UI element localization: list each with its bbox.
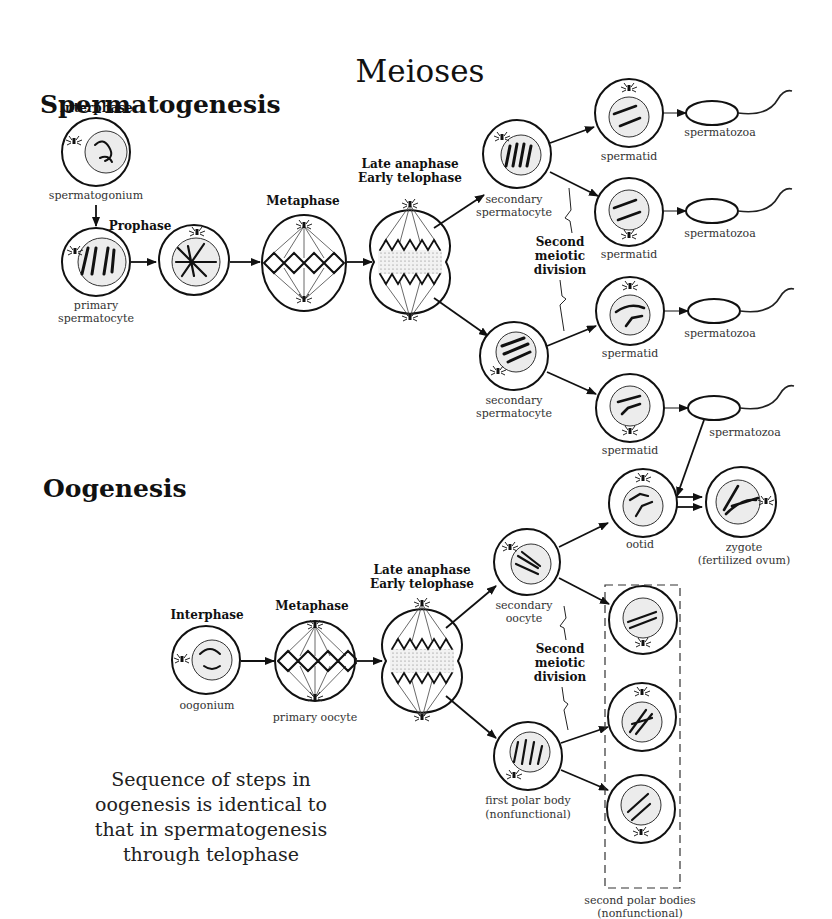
cell-secondary-oocyte (494, 529, 560, 595)
label-spermatogonium: spermatogonium (49, 189, 144, 202)
spermatozoon-2 (663, 189, 792, 223)
label-first-polar-body-2: (nonfunctional) (485, 808, 571, 821)
arrow-to-spermatid-1 (550, 127, 594, 143)
cell-prophase (159, 225, 229, 295)
cell-secondary-spermatocyte-lower (480, 322, 548, 390)
label-zygote-2: (fertilized ovum) (698, 554, 791, 567)
label-spermatozoa-1: spermatozoa (684, 126, 756, 139)
label-secondary-oocyte-1: secondary (495, 599, 553, 612)
cell-oogonium (172, 626, 240, 694)
arrow-to-secondary-spermatocyte-lower (434, 298, 488, 336)
label-spermatocyte-upper: spermatocyte (476, 206, 552, 219)
cell-primary-oocyte (275, 620, 356, 701)
phase-label-interphase: Interphase (59, 101, 132, 115)
cell-ootid (609, 469, 677, 537)
note-line-2: oogenesis is identical to (95, 793, 327, 815)
label-second-polar-bodies-1: second polar bodies (584, 894, 696, 907)
oo-phase-label-interphase: Interphase (170, 608, 243, 622)
phase-label-prophase: Prophase (109, 219, 172, 233)
arrow-fertilization (677, 420, 704, 496)
label-oogonium: oogonium (179, 699, 235, 712)
cell-second-polar-body-1 (609, 586, 677, 654)
label-spermatid-2: spermatid (601, 248, 657, 261)
phase-label-metaphase: Metaphase (266, 194, 340, 208)
label-ootid: ootid (626, 538, 654, 551)
label-spermatid-4: spermatid (602, 444, 658, 457)
oo-pointer-second-division-upper (560, 606, 566, 640)
second-division-line3: division (534, 263, 587, 277)
oo-phase-label-early-telophase: Early telophase (370, 577, 474, 591)
cell-spermatid-2 (595, 178, 663, 246)
cell-spermatogonium (62, 118, 130, 186)
note-line-3: that in spermatogenesis (95, 818, 327, 840)
cell-spermatid-3 (596, 277, 664, 345)
arrow-to-ootid (559, 523, 608, 547)
arrow-to-spermatid-4 (547, 372, 596, 394)
oo-phase-label-late-anaphase: Late anaphase (373, 563, 470, 577)
cell-second-polar-body-3 (607, 775, 675, 843)
pointer-second-division-upper (565, 188, 572, 233)
arrow-to-spermatid-2 (550, 172, 598, 196)
cell-zygote (706, 467, 776, 537)
cell-first-polar-body (494, 722, 562, 790)
sequence-note: Sequence of steps in oogenesis is identi… (95, 768, 327, 865)
oo-second-division-line1: Second (536, 642, 585, 656)
phase-label-late-anaphase: Late anaphase (361, 157, 458, 171)
spermatozoon-3 (664, 289, 794, 323)
label-spermatid-3: spermatid (602, 347, 658, 360)
cell-primary-spermatocyte (62, 228, 130, 296)
label-secondary-oocyte-2: oocyte (506, 612, 543, 625)
note-line-1: Sequence of steps in (111, 768, 310, 790)
arrow-to-second-polar-body-1 (559, 578, 609, 604)
cell-metaphase (262, 215, 346, 311)
spermatozoon-4 (664, 386, 794, 420)
arrow-to-secondary-oocyte (446, 586, 496, 628)
spermatozoon-1 (663, 91, 792, 125)
label-secondary-lower: secondary (485, 394, 543, 407)
label-primary-oocyte: primary oocyte (273, 711, 357, 724)
cell-spermatid-1 (595, 79, 663, 147)
pointer-second-division-lower (560, 280, 566, 331)
label-first-polar-body-1: first polar body (485, 794, 571, 807)
cell-oo-telophase (382, 598, 462, 721)
meiosis-diagram: Meioses Spermatogenesis Interphase sperm… (0, 0, 832, 919)
oo-second-division-line3: division (534, 670, 587, 684)
cell-spermatid-4 (596, 374, 664, 442)
arrow-to-second-polar-body-3 (561, 770, 608, 790)
section-heading-oogenesis: Oogenesis (43, 474, 187, 503)
cell-telophase (370, 199, 450, 321)
label-second-polar-bodies-2: (nonfunctional) (597, 907, 683, 919)
second-division-line2: meiotic (535, 249, 585, 263)
label-spermatozoa-4: spermatozoa (709, 426, 781, 439)
arrow-to-first-polar-body (446, 696, 496, 738)
second-division-line1: Second (536, 235, 585, 249)
label-spermatocyte-lower: spermatocyte (476, 407, 552, 420)
cell-secondary-spermatocyte-upper (483, 120, 551, 188)
oo-phase-label-metaphase: Metaphase (275, 599, 349, 613)
note-line-4: through telophase (123, 843, 299, 865)
arrow-to-spermatid-3 (547, 326, 596, 346)
oo-pointer-second-division-lower (562, 687, 568, 730)
label-primary: primary (74, 299, 119, 312)
cell-second-polar-body-2 (608, 683, 676, 751)
label-secondary-upper: secondary (485, 193, 543, 206)
label-zygote-1: zygote (726, 541, 763, 554)
phase-label-early-telophase: Early telophase (358, 171, 462, 185)
label-spermatid-1: spermatid (601, 150, 657, 163)
oo-second-division-line2: meiotic (535, 656, 585, 670)
diagram-title: Meioses (356, 53, 485, 89)
label-spermatozoa-3: spermatozoa (684, 327, 756, 340)
label-spermatocyte: spermatocyte (58, 312, 134, 325)
label-spermatozoa-2: spermatozoa (684, 227, 756, 240)
